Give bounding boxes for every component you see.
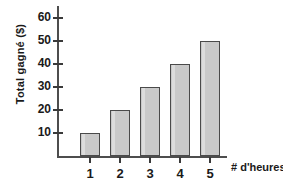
- x-tick-label: 1: [86, 166, 93, 181]
- y-tick-label: 10: [38, 125, 51, 139]
- x-tick-label: 5: [206, 166, 213, 181]
- x-axis-title: # d'heures: [231, 161, 283, 173]
- x-tick-mark: [179, 157, 181, 163]
- y-tick-mark: [53, 86, 63, 88]
- y-tick-label: 50: [38, 33, 51, 47]
- x-tick-mark: [89, 157, 91, 163]
- bar-chart: Total gagné ($) 102030405060 12345 # d'h…: [0, 0, 283, 192]
- y-tick-label: 20: [38, 102, 51, 116]
- bar: [140, 87, 160, 156]
- x-axis-line: [57, 156, 227, 158]
- y-tick-mark: [53, 132, 63, 134]
- bar: [200, 41, 220, 156]
- x-tick-mark: [149, 157, 151, 163]
- y-tick-mark: [53, 40, 63, 42]
- y-tick-mark: [53, 63, 63, 65]
- bar: [110, 110, 130, 156]
- x-tick-mark: [119, 157, 121, 163]
- y-tick-label: 30: [38, 79, 51, 93]
- bar: [170, 64, 190, 156]
- bar-highlight: [82, 134, 85, 155]
- bar-highlight: [142, 88, 145, 155]
- bar: [80, 133, 100, 156]
- plot-area: 102030405060 12345: [57, 6, 227, 158]
- y-tick-mark: [53, 17, 63, 19]
- y-axis-title: Total gagné ($): [14, 4, 26, 124]
- x-tick-mark: [209, 157, 211, 163]
- x-tick-label: 2: [116, 166, 123, 181]
- bar-highlight: [172, 65, 175, 155]
- y-axis-line: [57, 6, 59, 158]
- bar-highlight: [112, 111, 115, 155]
- x-tick-label: 3: [146, 166, 153, 181]
- y-tick-label: 40: [38, 56, 51, 70]
- y-tick-label: 60: [38, 10, 51, 24]
- x-tick-label: 4: [176, 166, 183, 181]
- y-tick-mark: [53, 109, 63, 111]
- bar-highlight: [202, 42, 205, 155]
